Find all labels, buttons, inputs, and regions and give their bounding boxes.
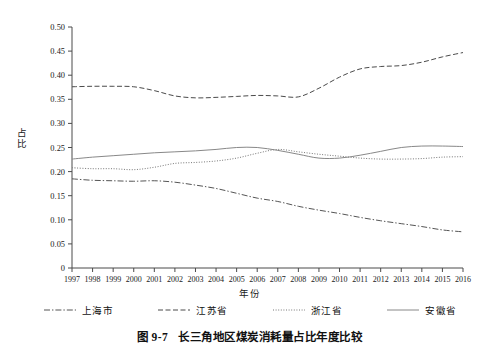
y-axis-title: 占比: [14, 128, 28, 150]
legend-swatch-icon: [43, 305, 77, 315]
y-tick-label: 0.30: [50, 119, 65, 128]
x-tick-label: 2005: [229, 275, 245, 284]
series-line: [72, 53, 463, 98]
x-tick-label: 2016: [455, 275, 471, 284]
x-tick-label: 1997: [64, 275, 80, 284]
series-line: [72, 179, 463, 232]
x-tick-label: 2001: [146, 275, 162, 284]
legend-swatch-icon: [386, 305, 420, 315]
x-tick-label: 2007: [270, 275, 286, 284]
legend-label: 江苏省: [196, 303, 228, 317]
y-tick-label: 0.45: [50, 47, 65, 56]
x-tick-label: 2004: [208, 275, 224, 284]
x-tick-label: 2015: [434, 275, 450, 284]
x-tick-label: 2011: [352, 275, 368, 284]
x-tick-label: 1999: [105, 275, 121, 284]
series-line: [72, 149, 463, 169]
legend-label: 浙江省: [311, 303, 343, 317]
x-tick-label: 2008: [290, 275, 306, 284]
y-tick-label: 0: [61, 264, 65, 273]
caption-number: 图 9-7: [137, 331, 169, 343]
series-group: [72, 53, 463, 232]
line-chart-svg: 00.050.100.150.200.250.300.350.400.450.5…: [0, 0, 499, 290]
x-tick-label: 2012: [373, 275, 389, 284]
legend-item: 江苏省: [157, 303, 228, 317]
legend-item: 安徽省: [386, 303, 457, 317]
y-tick-label: 0.15: [50, 192, 65, 201]
y-tick-label: 0.35: [50, 95, 65, 104]
legend-label: 上海市: [82, 303, 114, 317]
legend-swatch-icon: [157, 305, 191, 315]
y-tick-label: 0.20: [50, 168, 65, 177]
axis-group: 00.050.100.150.200.250.300.350.400.450.5…: [50, 23, 471, 284]
series-line: [72, 146, 463, 159]
x-tick-label: 2013: [393, 275, 409, 284]
legend-item: 上海市: [43, 303, 114, 317]
x-tick-label: 2010: [332, 275, 348, 284]
y-tick-label: 0.50: [50, 23, 65, 32]
x-tick-label: 2000: [126, 275, 142, 284]
y-tick-label: 0.25: [50, 144, 65, 153]
y-tick-label: 0.10: [50, 216, 65, 225]
figure-caption: 图 9-7长三角地区煤炭消耗量占比年度比较: [0, 328, 499, 344]
chart-legend: 上海市江苏省浙江省安徽省: [0, 303, 499, 317]
x-tick-label: 1998: [85, 275, 101, 284]
x-tick-label: 2009: [311, 275, 327, 284]
y-tick-label: 0.05: [50, 240, 65, 249]
x-tick-label: 2006: [249, 275, 265, 284]
figure-container: 00.050.100.150.200.250.300.350.400.450.5…: [0, 0, 499, 356]
x-tick-label: 2003: [187, 275, 203, 284]
plot-area: 00.050.100.150.200.250.300.350.400.450.5…: [0, 0, 499, 290]
caption-text: 长三角地区煤炭消耗量占比年度比较: [178, 331, 362, 343]
x-axis-title: 年份: [0, 286, 499, 300]
legend-item: 浙江省: [272, 303, 343, 317]
x-tick-label: 2014: [414, 275, 430, 284]
legend-swatch-icon: [272, 305, 306, 315]
x-tick-label: 2002: [167, 275, 183, 284]
legend-label: 安徽省: [425, 303, 457, 317]
y-tick-label: 0.40: [50, 71, 65, 80]
